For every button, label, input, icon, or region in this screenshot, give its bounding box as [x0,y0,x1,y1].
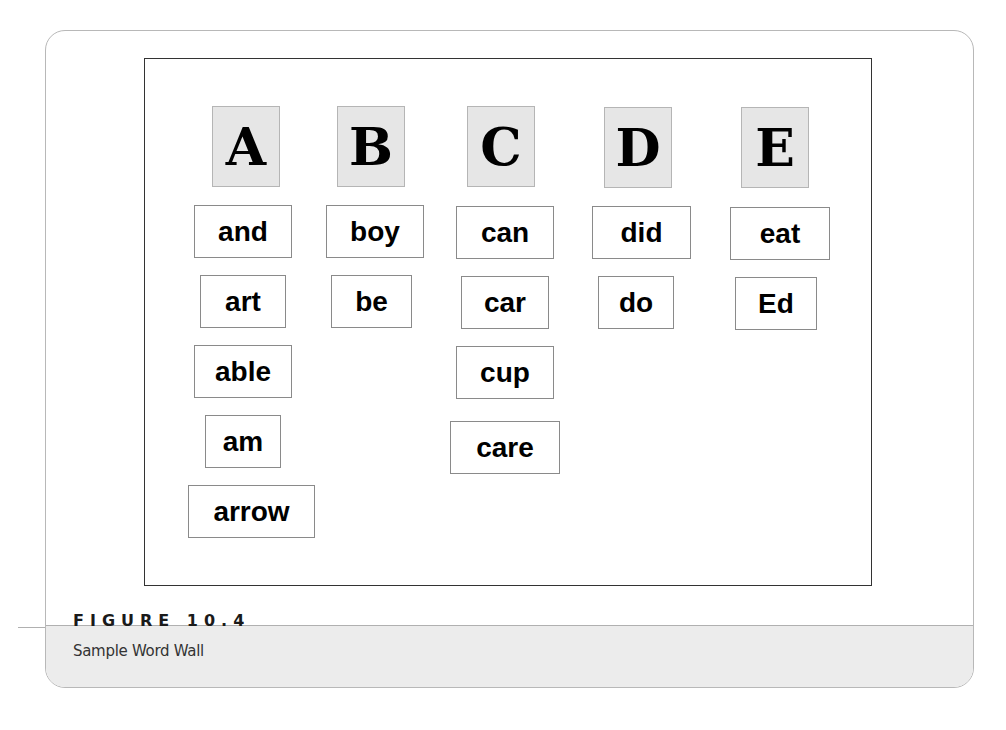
word-card: can [456,206,554,259]
word-card: art [200,275,286,328]
word-card: cup [456,346,554,399]
caption-rule [18,627,48,628]
letter-tile-e: E [741,107,809,188]
letter-tile-d: D [604,107,672,188]
figure-label: FIGURE 10.4 [73,611,250,630]
word-card: did [592,206,691,259]
word-card: boy [326,205,424,258]
figure-caption: Sample Word Wall [73,642,204,660]
letter-tile-a: A [212,106,280,187]
word-card: and [194,205,292,258]
letter-tile-c: C [467,106,535,187]
word-card: eat [730,207,830,260]
word-card: do [598,276,674,329]
letter-tile-b: B [337,106,405,187]
word-card: care [450,421,560,474]
word-card: Ed [735,277,817,330]
word-card: arrow [188,485,315,538]
word-card: car [461,276,549,329]
word-wall: A and art able am arrow B boy be C can c… [144,58,872,586]
word-card: able [194,345,292,398]
word-card: be [331,275,412,328]
word-card: am [205,415,281,468]
